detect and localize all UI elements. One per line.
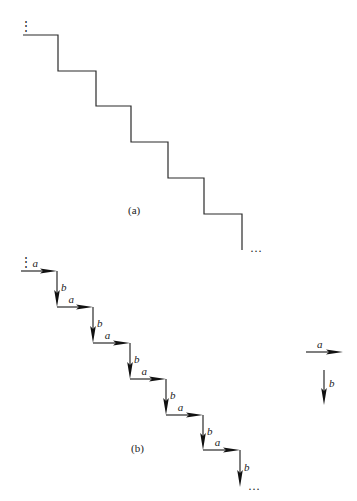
a-arrow (166, 412, 203, 417)
b-label: b (170, 389, 176, 401)
b-arrow (90, 307, 96, 343)
figure-a-start-dots: ⋮ (20, 19, 32, 33)
b-arrow (163, 379, 169, 415)
a-arrow (130, 376, 166, 381)
staircase-path (23, 35, 242, 250)
figure-a-end-dots: … (250, 241, 262, 255)
figure-a-staircase (23, 35, 242, 250)
b-arrow (127, 343, 133, 379)
legend-b-label: b (329, 377, 335, 389)
b-arrow (237, 450, 243, 487)
a-label: a (69, 293, 75, 305)
b-label: b (244, 461, 250, 473)
a-arrow (57, 304, 93, 309)
figure-a-caption: (a) (128, 204, 141, 217)
b-label: b (207, 425, 213, 437)
a-label: a (215, 436, 221, 448)
b-arrow (54, 271, 60, 307)
b-label: b (134, 353, 140, 365)
a-label: a (178, 401, 184, 413)
figure-b-caption: (b) (131, 442, 144, 455)
a-arrow (93, 340, 130, 345)
a-arrow (203, 447, 240, 452)
legend-a-label: a (317, 338, 323, 350)
a-label: a (142, 365, 148, 377)
b-arrow (200, 415, 206, 450)
figure-b-end-dots: … (248, 479, 260, 493)
a-label: a (33, 257, 39, 269)
legend-a-arrow (306, 349, 343, 354)
diagram-canvas: ⋮ … (a) abababababab ⋮ … (b) ab (0, 0, 357, 501)
b-label: b (97, 317, 103, 329)
b-label: b (61, 281, 67, 293)
a-arrow (21, 268, 57, 273)
legend-b-arrow (321, 370, 327, 405)
legend: ab (306, 338, 343, 405)
figure-b-start-dots: ⋮ (20, 255, 32, 269)
a-label: a (105, 329, 111, 341)
